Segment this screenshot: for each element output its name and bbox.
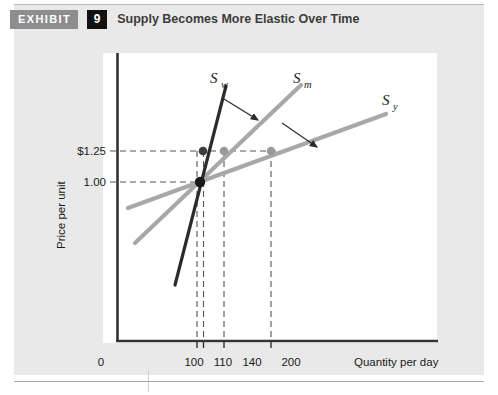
x-tick-label-0: 0 xyxy=(98,356,104,368)
svg-text:S: S xyxy=(210,70,218,86)
x-tick-label-200: 200 xyxy=(281,356,300,368)
arrow-week-to-month xyxy=(224,99,258,120)
marker-week-110 xyxy=(199,147,208,156)
curve-label-week: S w xyxy=(210,70,228,90)
x-tick-label-100: 100 xyxy=(184,356,203,368)
x-tick-label-110: 110 xyxy=(214,356,232,368)
supply-curves-chart: S w S m S y $1.25 1.00 Price per unit 0 … xyxy=(14,4,484,375)
curve-label-month: S m xyxy=(293,70,312,90)
exhibit-page: EXHIBIT 9 Supply Becomes More Elastic Ov… xyxy=(0,0,498,395)
x-axis-title: Quantity per day xyxy=(354,356,439,368)
svg-text:m: m xyxy=(304,79,312,90)
x-tick-label-140: 140 xyxy=(242,356,261,368)
marker-year-200 xyxy=(267,147,276,156)
svg-text:S: S xyxy=(382,92,390,108)
svg-text:w: w xyxy=(221,79,228,90)
marker-equilibrium-100 xyxy=(195,177,205,187)
curve-label-year: S y xyxy=(382,92,398,112)
marker-month-140 xyxy=(220,147,229,156)
svg-text:y: y xyxy=(392,101,398,112)
y-tick-label-125: $1.25 xyxy=(77,145,106,157)
y-tick-label-100: 1.00 xyxy=(84,176,106,188)
footer-divider xyxy=(14,381,484,382)
supply-curve-month xyxy=(135,85,301,243)
y-axis-title: Price per unit xyxy=(55,180,67,249)
svg-text:S: S xyxy=(293,70,301,86)
